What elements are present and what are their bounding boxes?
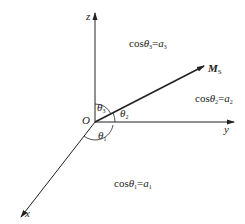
theta3-label: θ3 (97, 101, 105, 114)
y-axis-label: y (223, 123, 229, 135)
equation-cos-theta3: cosθ3=a3 (129, 37, 167, 50)
theta2-label: θ2 (120, 107, 128, 120)
equation-cos-theta1: cosθ1=a1 (114, 177, 152, 190)
diagram-svg: z y x O MS θ3 θ2 θ1 cosθ3=a3 cosθ2=a2 co… (0, 0, 245, 224)
vector-label: MS (207, 62, 222, 76)
theta2-arc (113, 113, 115, 122)
origin-label: O (82, 114, 90, 126)
vector-ms (95, 66, 204, 122)
equation-cos-theta2: cosθ2=a2 (195, 92, 233, 105)
x-axis-label: x (24, 207, 30, 219)
z-axis-label: z (85, 10, 91, 22)
theta1-label: θ1 (98, 129, 106, 142)
direction-cosines-diagram: z y x O MS θ3 θ2 θ1 cosθ3=a3 cosθ2=a2 co… (0, 0, 245, 224)
